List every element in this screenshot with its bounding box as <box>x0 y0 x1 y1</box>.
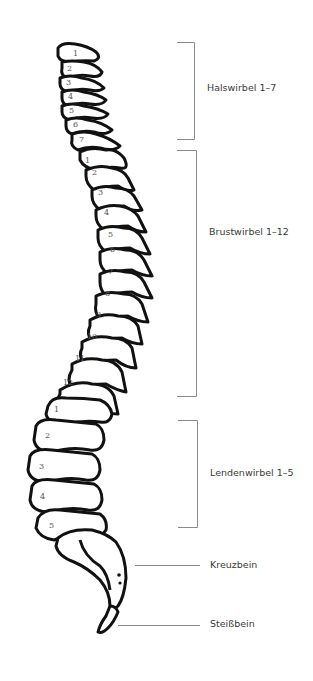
svg-text:1: 1 <box>54 405 59 414</box>
svg-text:7: 7 <box>79 135 84 144</box>
svg-text:8: 8 <box>105 289 110 298</box>
label-thoracic: Brustwirbel 1–12 <box>209 226 289 237</box>
svg-text:6: 6 <box>110 245 115 254</box>
svg-text:3: 3 <box>98 188 103 197</box>
svg-text:4: 4 <box>68 92 73 101</box>
spine-diagram: 1234567 123456789101112 12345 Halswirbel… <box>0 0 313 681</box>
svg-text:10: 10 <box>87 332 97 341</box>
svg-text:9: 9 <box>96 310 101 319</box>
cervical-vertebra-1 <box>58 44 99 63</box>
label-sacrum: Kreuzbein <box>210 559 257 570</box>
label-lumbar: Lendenwirbel 1–5 <box>210 467 294 478</box>
bracket-lumbar <box>178 421 198 528</box>
svg-text:3: 3 <box>66 78 71 87</box>
svg-text:11: 11 <box>75 354 85 363</box>
svg-text:2: 2 <box>92 168 97 177</box>
svg-text:2: 2 <box>67 64 72 73</box>
svg-text:5: 5 <box>49 521 54 530</box>
svg-text:5: 5 <box>69 106 74 115</box>
svg-text:4: 4 <box>104 208 109 217</box>
bracket-cervical <box>177 43 195 140</box>
svg-text:7: 7 <box>108 267 113 276</box>
svg-text:1: 1 <box>73 49 78 58</box>
sacrum <box>56 530 126 609</box>
spine-illustration: 1234567 123456789101112 12345 <box>0 0 313 681</box>
svg-text:2: 2 <box>45 431 50 440</box>
svg-text:1: 1 <box>85 156 90 165</box>
label-cervical: Halswirbel 1–7 <box>207 82 276 93</box>
svg-text:3: 3 <box>39 462 44 471</box>
svg-text:12: 12 <box>63 378 73 387</box>
svg-text:4: 4 <box>40 492 45 501</box>
bracket-thoracic <box>177 151 197 397</box>
svg-text:5: 5 <box>108 230 113 239</box>
coccyx <box>98 606 118 633</box>
label-coccyx: Steißbein <box>210 618 255 629</box>
svg-text:6: 6 <box>73 120 78 129</box>
